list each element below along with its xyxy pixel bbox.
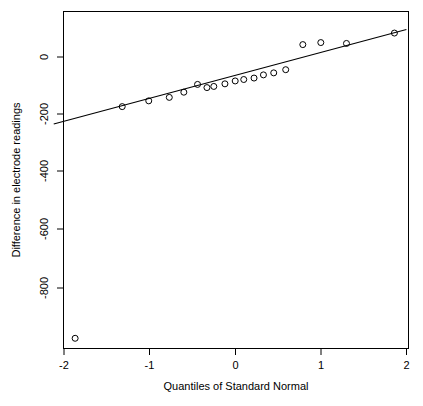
x-tick-label: -1 bbox=[145, 359, 155, 371]
y-tick-label: -800 bbox=[38, 277, 50, 299]
x-tick-label: -2 bbox=[59, 359, 69, 371]
x-axis-title: Quantiles of Standard Normal bbox=[164, 380, 309, 392]
y-axis-title: Difference in electrode readings bbox=[10, 102, 22, 258]
y-tick-label: -600 bbox=[38, 218, 50, 240]
x-tick-label: 1 bbox=[318, 359, 324, 371]
y-tick-label: -200 bbox=[38, 103, 50, 125]
x-tick-label: 0 bbox=[232, 359, 238, 371]
y-tick-label: -400 bbox=[38, 160, 50, 182]
x-tick-label: 2 bbox=[403, 359, 409, 371]
plot-canvas: -2 -1 0 1 2 0 -200 -400 -600 -800 Quanti… bbox=[0, 0, 423, 406]
y-tick-label: 0 bbox=[38, 54, 50, 60]
qq-plot-figure: -2 -1 0 1 2 0 -200 -400 -600 -800 Quanti… bbox=[0, 0, 423, 406]
